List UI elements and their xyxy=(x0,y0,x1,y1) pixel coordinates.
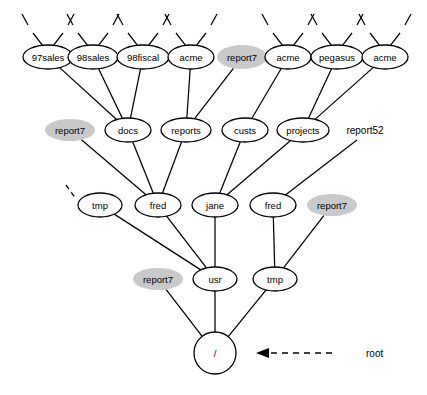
node-97sales[interactable]: 97sales xyxy=(23,45,73,69)
node-pegasus[interactable]: pegasus xyxy=(311,45,363,69)
node-label: projects xyxy=(286,125,320,136)
edge-pegasus-to-projects xyxy=(308,69,331,119)
node-stub xyxy=(98,33,108,45)
node-stub xyxy=(370,33,380,45)
node-tmp2[interactable]: tmp xyxy=(253,267,297,291)
node-label: 98sales xyxy=(77,52,110,63)
node-stub-detached xyxy=(262,14,268,25)
node-label: report7 xyxy=(317,200,347,211)
node-tmp1[interactable]: tmp xyxy=(78,193,122,217)
edge-report7_r4-to-root xyxy=(166,289,202,336)
node-stub xyxy=(196,33,206,45)
node-fred1[interactable]: fred xyxy=(135,193,181,217)
node-label: 98fiscal xyxy=(127,52,159,63)
node-acme3[interactable]: acme xyxy=(362,45,408,69)
node-stub xyxy=(128,33,138,45)
node-label: report7 xyxy=(55,125,85,136)
node-label: acme xyxy=(373,52,396,63)
node-label: report7 xyxy=(227,52,257,63)
node-stub-detached xyxy=(67,14,73,25)
edge-acme3-to-projects xyxy=(315,67,373,119)
node-label: fred xyxy=(150,200,166,211)
node-label: custs xyxy=(234,125,256,136)
node-98fiscal[interactable]: 98fiscal xyxy=(117,45,169,69)
edge-tmp1-to-usr xyxy=(114,214,201,270)
node-stub-detached xyxy=(311,14,317,25)
edge-report7_t-to-reports xyxy=(195,68,234,118)
node-label: 97sales xyxy=(32,52,65,63)
node-stub-layer xyxy=(22,14,411,199)
node-stub xyxy=(176,33,186,45)
node-projects[interactable]: projects xyxy=(277,118,329,142)
node-label: tmp xyxy=(267,274,283,285)
node-custs[interactable]: custs xyxy=(222,118,268,142)
node-stub xyxy=(322,33,332,45)
edge-reports-to-fred1 xyxy=(162,142,181,193)
node-98sales[interactable]: 98sales xyxy=(68,45,118,69)
node-stub xyxy=(53,33,63,45)
edge-report7_r3-to-tmp2 xyxy=(284,215,324,268)
node-label: reports xyxy=(171,125,201,136)
node-stub-detached xyxy=(308,14,314,25)
detached-stub xyxy=(66,185,76,199)
node-root[interactable]: / xyxy=(194,332,236,374)
node-report7_t[interactable]: report7 xyxy=(217,45,267,69)
node-stub xyxy=(273,33,283,45)
node-stub-detached xyxy=(211,14,217,25)
node-stub xyxy=(390,33,400,45)
node-jane[interactable]: jane xyxy=(192,193,238,217)
node-stub-detached xyxy=(22,14,28,25)
node-acme2[interactable]: acme xyxy=(265,45,311,69)
node-docs[interactable]: docs xyxy=(105,118,151,142)
root-annotation-label: root xyxy=(366,348,383,359)
node-stub-detached xyxy=(117,14,123,25)
node-usr[interactable]: usr xyxy=(193,267,237,291)
node-reports[interactable]: reports xyxy=(161,118,211,142)
node-label: jane xyxy=(205,200,224,211)
root-arrowhead xyxy=(256,348,269,358)
node-label: acme xyxy=(179,52,202,63)
hardlink-tree-diagram: 97sales98sales98fiscalacmereport7acmepeg… xyxy=(0,0,427,395)
edge-tmp2-to-root xyxy=(228,290,266,337)
node-label: tmp xyxy=(92,200,108,211)
edge-report52-to-fred2 xyxy=(285,140,357,195)
edge-98fiscal-to-docs xyxy=(130,69,140,118)
edge-fred2-to-tmp2 xyxy=(273,217,274,267)
node-stub-detached xyxy=(405,14,411,25)
node-label: report7 xyxy=(143,274,173,285)
edge-acme2-to-custs xyxy=(252,68,281,118)
node-stub xyxy=(33,33,43,45)
node-report52[interactable]: report52 xyxy=(346,125,384,136)
node-report7_r2[interactable]: report7 xyxy=(45,119,95,141)
edge-projects-to-jane xyxy=(227,141,291,195)
node-fred2[interactable]: fred xyxy=(250,193,296,217)
node-label: docs xyxy=(118,125,138,136)
node-label: usr xyxy=(208,274,221,285)
edge-98sales-to-docs xyxy=(99,69,123,119)
node-report7_r4[interactable]: report7 xyxy=(133,268,183,290)
node-label: pegasus xyxy=(319,52,355,63)
root-annotation: root xyxy=(256,348,383,359)
node-stub xyxy=(78,33,88,45)
edge-acme1-to-reports xyxy=(187,69,190,118)
node-stub-detached xyxy=(68,14,74,25)
edge-report7_r2-to-fred1 xyxy=(81,140,146,195)
node-stub xyxy=(149,33,159,45)
node-report7_r3[interactable]: report7 xyxy=(307,194,357,216)
edge-97sales-to-docs xyxy=(60,68,117,120)
node-stub xyxy=(343,33,353,45)
node-acme1[interactable]: acme xyxy=(168,45,214,69)
node-label: report52 xyxy=(346,125,384,136)
node-stub xyxy=(293,33,303,45)
node-label: fred xyxy=(265,200,281,211)
node-label: acme xyxy=(276,52,299,63)
node-label: / xyxy=(214,348,217,359)
